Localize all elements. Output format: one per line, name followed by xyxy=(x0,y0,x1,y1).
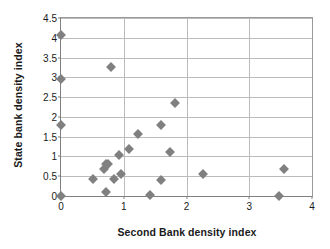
plot-area: 00.511.522.533.544.501234 xyxy=(60,17,313,197)
y-axis-tick-mark xyxy=(58,136,61,137)
data-point xyxy=(88,174,98,184)
x-axis-tick-label: 4 xyxy=(309,201,315,212)
y-axis-tick-label: 0.5 xyxy=(43,171,57,182)
x-axis-title: Second Bank density index xyxy=(60,226,314,238)
data-point xyxy=(145,190,155,200)
gridline-vertical xyxy=(124,18,125,196)
y-axis-tick-mark xyxy=(58,18,61,19)
y-axis-tick-mark xyxy=(58,116,61,117)
x-axis-tick-mark xyxy=(186,196,187,199)
y-axis-tick-mark xyxy=(58,57,61,58)
data-point xyxy=(198,169,208,179)
data-point xyxy=(279,165,289,175)
gridline-vertical xyxy=(187,18,188,196)
x-axis-tick-mark xyxy=(249,196,250,199)
y-axis-tick-mark xyxy=(58,97,61,98)
x-axis-tick-label: 0 xyxy=(58,201,64,212)
data-point xyxy=(124,144,134,154)
x-axis-tick-mark xyxy=(123,196,124,199)
data-point xyxy=(101,187,111,197)
y-axis-tick-mark xyxy=(58,156,61,157)
data-point xyxy=(56,74,66,84)
data-point xyxy=(56,191,66,201)
y-axis-tick-label: 2.5 xyxy=(43,92,57,103)
y-axis-tick-label: 4.5 xyxy=(43,13,57,24)
data-point xyxy=(56,120,66,130)
y-axis-tick-label: 1 xyxy=(51,151,57,162)
x-axis-tick-label: 3 xyxy=(246,201,252,212)
data-point xyxy=(156,120,166,130)
y-axis-tick-mark xyxy=(58,176,61,177)
x-axis-tick-label: 1 xyxy=(121,201,127,212)
data-point xyxy=(165,147,175,157)
y-axis-tick-label: 2 xyxy=(51,111,57,122)
y-axis-title: State bank density index xyxy=(9,5,27,205)
scatter-chart: State bank density index 00.511.522.533.… xyxy=(0,0,330,249)
data-point xyxy=(106,62,116,72)
data-point xyxy=(274,191,284,201)
gridline-vertical xyxy=(249,18,250,196)
y-axis-tick-label: 3.5 xyxy=(43,52,57,63)
x-axis-tick-label: 2 xyxy=(184,201,190,212)
y-axis-tick-label: 1.5 xyxy=(43,131,57,142)
data-point xyxy=(170,98,180,108)
x-axis-tick-mark xyxy=(312,196,313,199)
